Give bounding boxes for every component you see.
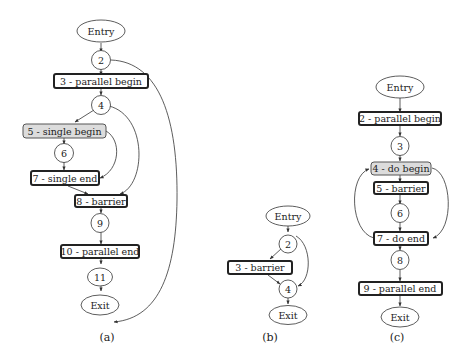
- svg-text:Exit: Exit: [278, 310, 297, 321]
- svg-text:9: 9: [97, 218, 103, 229]
- node-c-4-do-begin: 4 - do begin: [371, 162, 431, 175]
- node-b-4: 4: [279, 280, 297, 298]
- node-a-exit: Exit: [81, 295, 119, 315]
- svg-text:10 - parallel end: 10 - parallel end: [61, 246, 140, 257]
- svg-text:Exit: Exit: [90, 300, 109, 311]
- svg-text:4: 4: [285, 284, 291, 295]
- caption-b: (b): [262, 331, 278, 344]
- node-b-exit: Exit: [269, 306, 307, 325]
- svg-text:2: 2: [285, 239, 291, 250]
- node-b-2: 2: [279, 235, 297, 253]
- svg-text:7 - do end: 7 - do end: [377, 233, 425, 244]
- svg-text:6: 6: [397, 208, 403, 219]
- svg-text:3 - barrier: 3 - barrier: [235, 262, 285, 273]
- svg-text:8: 8: [397, 255, 403, 266]
- diagram-a: Entry 2 3 - parallel begin 4 5 - single …: [23, 20, 177, 344]
- node-c-5-barrier: 5 - barrier: [374, 182, 428, 194]
- svg-text:5 - single begin: 5 - single begin: [27, 126, 101, 137]
- node-a-2: 2: [92, 51, 111, 70]
- node-a-6: 6: [55, 144, 74, 163]
- caption-a: (a): [99, 331, 114, 344]
- node-a-8-barrier: 8 - barrier: [75, 195, 127, 207]
- node-b-entry: Entry: [266, 206, 310, 226]
- node-c-8: 8: [391, 251, 409, 270]
- diagram-c: Entry 2 - parallel begin 3 4 - do begin …: [355, 76, 449, 344]
- caption-c: (c): [390, 331, 405, 344]
- svg-text:4: 4: [98, 100, 104, 111]
- svg-text:6: 6: [61, 148, 67, 159]
- node-c-2-parallel-begin: 2 - parallel begin: [359, 112, 441, 125]
- svg-text:4 - do begin: 4 - do begin: [372, 163, 429, 174]
- node-a-4: 4: [92, 96, 111, 115]
- svg-text:3 - parallel begin: 3 - parallel begin: [60, 76, 142, 87]
- svg-text:11: 11: [94, 272, 106, 283]
- svg-text:Exit: Exit: [390, 312, 409, 323]
- svg-text:5 - barrier: 5 - barrier: [376, 183, 426, 194]
- node-c-entry: Entry: [376, 76, 424, 98]
- node-a-entry: Entry: [77, 20, 125, 42]
- svg-text:9 - parallel end: 9 - parallel end: [364, 283, 437, 294]
- control-flow-graphs-figure: Entry 2 3 - parallel begin 4 5 - single …: [0, 0, 470, 361]
- svg-text:2 - parallel begin: 2 - parallel begin: [359, 113, 441, 124]
- svg-text:7 - single end: 7 - single end: [33, 173, 98, 184]
- svg-text:Entry: Entry: [275, 211, 302, 222]
- svg-text:Entry: Entry: [387, 82, 414, 93]
- node-c-6: 6: [391, 204, 409, 223]
- svg-text:Entry: Entry: [88, 26, 115, 37]
- node-a-9: 9: [91, 214, 109, 233]
- node-a-3-parallel-begin: 3 - parallel begin: [54, 74, 148, 88]
- node-a-7-single-end: 7 - single end: [31, 171, 99, 185]
- node-c-7-do-end: 7 - do end: [374, 232, 428, 245]
- node-a-5-single-begin: 5 - single begin: [23, 124, 106, 138]
- node-b-3-barrier: 3 - barrier: [228, 261, 292, 274]
- diagram-b: Entry 2 3 - barrier 4 Exit (b): [228, 206, 310, 344]
- node-c-exit: Exit: [381, 307, 419, 327]
- node-c-9-parallel-end: 9 - parallel end: [359, 282, 442, 295]
- node-c-3: 3: [391, 137, 409, 156]
- diagram-c-edges: [355, 98, 449, 306]
- node-a-10-parallel-end: 10 - parallel end: [61, 245, 140, 258]
- svg-text:3: 3: [397, 141, 403, 152]
- node-a-11: 11: [88, 268, 113, 286]
- svg-text:2: 2: [98, 55, 104, 66]
- svg-text:8 - barrier: 8 - barrier: [76, 196, 126, 207]
